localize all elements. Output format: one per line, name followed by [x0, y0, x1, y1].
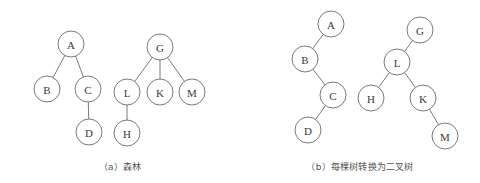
tree-node: B	[292, 46, 318, 72]
figure-root: ABCDGLKMHABCDGLHKM （a）森林 （b）每棵树转换为二叉树	[0, 0, 480, 183]
node-circle	[410, 85, 436, 111]
tree-edge	[405, 41, 413, 52]
node-circle	[292, 46, 318, 72]
tree-edge	[76, 56, 84, 77]
tree-node: G	[407, 17, 433, 43]
tree-edge	[430, 109, 439, 125]
tree-node: K	[147, 79, 173, 105]
tree-edge	[53, 55, 65, 77]
node-circle	[147, 79, 173, 105]
node-circle	[432, 123, 458, 149]
tree-diagram-canvas: ABCDGLKMHABCDGLHKM	[0, 0, 480, 183]
tree-node: A	[58, 31, 84, 57]
tree-edge	[316, 106, 326, 120]
node-circle	[114, 79, 140, 105]
tree-node: G	[147, 34, 173, 60]
tree-node: M	[432, 123, 458, 149]
tree-edge	[135, 57, 153, 81]
node-circle	[407, 17, 433, 43]
node-circle	[318, 11, 344, 37]
tree-edge	[379, 73, 390, 88]
node-circle	[384, 49, 410, 75]
tree-node: L	[114, 79, 140, 105]
node-circle	[114, 120, 140, 146]
tree-node: D	[76, 119, 102, 145]
tree-node: C	[320, 82, 346, 108]
tree-node: B	[34, 76, 60, 102]
tree-node: H	[358, 85, 384, 111]
node-circle	[179, 79, 205, 105]
edges-layer	[53, 34, 438, 124]
tree-node: H	[114, 120, 140, 146]
node-circle	[147, 34, 173, 60]
tree-node: C	[75, 76, 101, 102]
node-circle	[58, 31, 84, 57]
tree-node: A	[318, 11, 344, 37]
nodes-layer: ABCDGLKMHABCDGLHKM	[34, 11, 458, 149]
caption-panel-a: （a）森林	[0, 160, 240, 173]
node-circle	[34, 76, 60, 102]
tree-node: K	[410, 85, 436, 111]
tree-node: L	[384, 49, 410, 75]
tree-edge	[313, 69, 325, 84]
node-circle	[295, 117, 321, 143]
tree-node: D	[295, 117, 321, 143]
tree-edge	[313, 34, 324, 48]
node-circle	[75, 76, 101, 102]
node-circle	[76, 119, 102, 145]
caption-panel-b: （b）每棵树转换为二叉树	[240, 160, 480, 173]
tree-node: M	[179, 79, 205, 105]
tree-edge	[405, 73, 416, 88]
tree-edge	[168, 58, 185, 82]
node-circle	[320, 82, 346, 108]
node-circle	[358, 85, 384, 111]
